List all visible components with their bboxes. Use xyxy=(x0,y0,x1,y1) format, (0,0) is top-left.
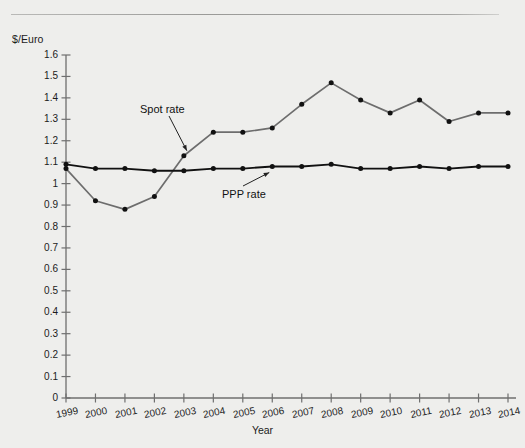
y-tick-label: 0.4 xyxy=(24,306,58,317)
y-tick-label: 1.4 xyxy=(24,92,58,103)
chart-plot-area xyxy=(0,0,525,448)
y-tick-label: 0.8 xyxy=(24,221,58,232)
y-tick-label: 1.2 xyxy=(24,135,58,146)
y-tick-label: 1.6 xyxy=(24,49,58,60)
axes xyxy=(62,55,517,403)
series-label-spot-rate: Spot rate xyxy=(140,103,185,115)
y-tick-label: 0.5 xyxy=(24,285,58,296)
annotation-arrows xyxy=(169,116,269,186)
y-tick-label: 0.9 xyxy=(24,199,58,210)
y-tick-label: 0.3 xyxy=(24,328,58,339)
y-tick-label: 0.2 xyxy=(24,349,58,360)
x-axis-title: Year xyxy=(0,424,525,436)
data-series-group xyxy=(64,80,511,211)
y-tick-label: 0 xyxy=(24,392,58,403)
y-tick-label: 0.7 xyxy=(24,242,58,253)
y-tick-label: 0.6 xyxy=(24,263,58,274)
y-tick-label: 1.5 xyxy=(24,70,58,81)
y-tick-label: 1.3 xyxy=(24,113,58,124)
y-tick-label: 0.1 xyxy=(24,371,58,382)
y-tick-label: 1 xyxy=(24,178,58,189)
series-label-ppp-rate: PPP rate xyxy=(222,188,266,200)
y-tick-label: 1.1 xyxy=(24,156,58,167)
chart-figure: $/Euro 00.10.20.30.40.50.60.70.80.911.11… xyxy=(0,0,525,448)
